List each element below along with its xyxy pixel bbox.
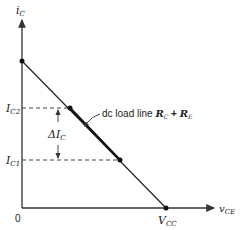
ic2-label: IC2 (5, 102, 21, 116)
load-line-annotation: dc load line RC + RE (102, 108, 193, 120)
origin-label: 0 (15, 213, 21, 224)
delta-ic-label: ΔIC (47, 128, 66, 142)
ic1-point-dot (118, 158, 123, 163)
vcc-label: VCC (158, 214, 177, 228)
x-axis-label: vCE (219, 203, 235, 216)
load-line-diagram: iC vCE 0 IC2 IC1 ΔIC VCC dc load line RC… (0, 0, 244, 230)
ic1-label: IC1 (5, 154, 20, 168)
annotation-leader (86, 114, 100, 124)
y-axis-label: iC (16, 4, 26, 18)
vcc-point-dot (164, 206, 169, 211)
ic2-point-dot (68, 106, 73, 111)
ic-intercept-dot (20, 59, 25, 64)
